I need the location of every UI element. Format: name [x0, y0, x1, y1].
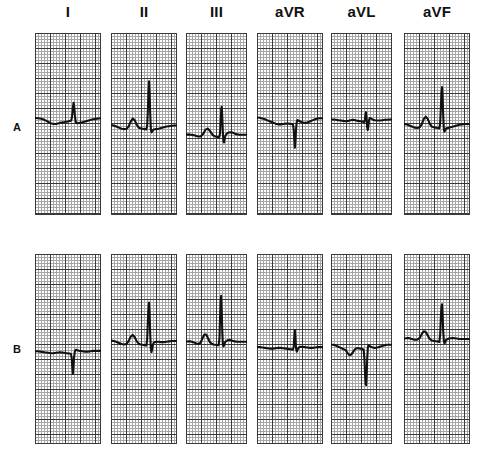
ecg-panel-b-i — [35, 254, 101, 444]
row-label-a: A — [9, 122, 25, 133]
lead-label-avf: aVF — [404, 4, 470, 20]
lead-label-iii: III — [186, 4, 247, 20]
ecg-panel-b-avl — [331, 254, 392, 444]
row-label-b: B — [9, 344, 25, 355]
ecg-figure: IIIIIIaVRaVLaVFAB — [0, 0, 488, 463]
ecg-panel-a-iii — [186, 33, 247, 215]
ecg-panel-a-avf — [404, 33, 470, 215]
lead-label-i: I — [35, 4, 101, 20]
ecg-panel-b-avf — [404, 254, 470, 444]
ecg-panel-a-ii — [111, 33, 177, 215]
lead-label-avr: aVR — [257, 4, 323, 20]
lead-label-ii: II — [111, 4, 177, 20]
ecg-panel-a-avr — [257, 33, 323, 215]
ecg-panel-b-iii — [186, 254, 247, 444]
ecg-panel-b-ii — [111, 254, 177, 444]
ecg-panel-a-i — [35, 33, 101, 215]
ecg-panel-a-avl — [331, 33, 392, 215]
ecg-panel-b-avr — [257, 254, 323, 444]
lead-label-avl: aVL — [331, 4, 392, 20]
